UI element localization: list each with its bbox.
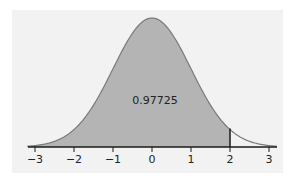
x-tick-label: 3	[266, 153, 273, 166]
area-annotation: 0.97725	[132, 94, 178, 107]
x-axis-ticks: −3−2−10123	[27, 147, 273, 166]
normal-distribution-chart: −3−2−10123 0.97725	[0, 0, 291, 182]
x-tick-label: −1	[105, 153, 121, 166]
x-tick-label: −3	[27, 153, 43, 166]
x-tick-label: 0	[149, 153, 156, 166]
x-tick-label: 2	[227, 153, 234, 166]
shaded-area	[27, 18, 230, 147]
x-tick-label: −2	[66, 153, 82, 166]
x-tick-label: 1	[188, 153, 195, 166]
